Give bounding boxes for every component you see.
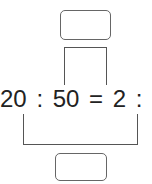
top-bracket-left xyxy=(64,47,65,85)
term-2: 2 xyxy=(113,85,126,113)
top-bracket-right xyxy=(106,47,107,85)
bottom-bracket-left xyxy=(23,114,24,145)
bottom-bracket-bar xyxy=(23,144,138,145)
term-50: 50 xyxy=(53,85,80,113)
top-bracket-bar xyxy=(64,47,107,48)
ratio-equation: 20 : 50 = 2 : 5 xyxy=(0,85,152,113)
bottom-answer-box[interactable] xyxy=(55,153,107,181)
term-20: 20 xyxy=(0,85,27,113)
bottom-bracket-right xyxy=(137,114,138,145)
top-answer-box[interactable] xyxy=(60,10,111,40)
equals-sign: = xyxy=(89,85,103,113)
colon-2: : xyxy=(136,85,143,113)
colon-1: : xyxy=(36,85,43,113)
